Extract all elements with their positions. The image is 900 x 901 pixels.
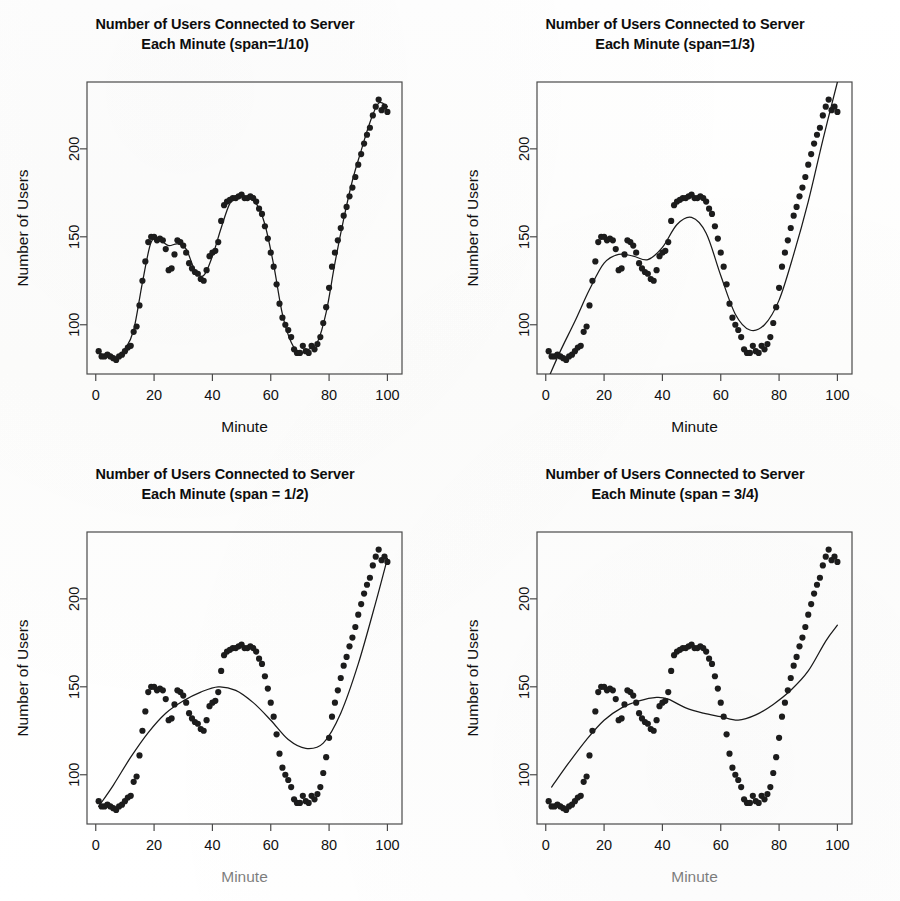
data-point — [715, 685, 721, 691]
data-point — [201, 728, 207, 734]
data-point — [767, 784, 773, 790]
data-point — [384, 559, 390, 565]
data-point — [796, 643, 802, 649]
data-point — [712, 223, 718, 229]
data-point — [782, 700, 788, 706]
data-point — [163, 246, 169, 252]
data-point — [256, 656, 262, 662]
data-point — [636, 710, 642, 716]
data-point — [826, 96, 832, 102]
data-point — [735, 327, 741, 333]
data-point — [589, 278, 595, 284]
chart-svg: 020406080100100150200MinuteNumber of Use… — [0, 0, 450, 451]
data-point — [279, 765, 285, 771]
data-point — [756, 350, 762, 356]
data-point — [343, 204, 349, 210]
x-axis-title: Minute — [221, 418, 268, 435]
data-point — [738, 334, 744, 340]
data-point — [326, 285, 332, 291]
data-point — [218, 668, 224, 674]
data-point — [726, 301, 732, 307]
data-point — [96, 348, 102, 354]
data-point — [215, 239, 221, 245]
data-point — [793, 204, 799, 210]
x-tick-label: 20 — [146, 387, 162, 403]
loess-smooth-line — [549, 82, 838, 378]
data-point — [262, 223, 268, 229]
data-point — [788, 225, 794, 231]
chart-panel-span-1-3: Number of Users Connected to Server Each… — [450, 0, 900, 450]
data-point — [788, 675, 794, 681]
data-point — [381, 104, 387, 110]
data-point — [776, 285, 782, 291]
data-point — [706, 206, 712, 212]
data-point — [131, 779, 137, 785]
data-point — [808, 601, 814, 607]
data-point — [805, 612, 811, 618]
x-tick-label: 20 — [146, 837, 162, 853]
y-tick-label: 150 — [516, 225, 532, 249]
data-point — [767, 334, 773, 340]
data-point — [546, 348, 552, 354]
data-point — [212, 698, 218, 704]
data-point — [613, 696, 619, 702]
x-tick-label: 20 — [596, 837, 612, 853]
data-point — [358, 601, 364, 607]
y-tick-label: 200 — [516, 587, 532, 611]
data-point — [808, 151, 814, 157]
x-tick-label: 40 — [654, 387, 670, 403]
data-point — [610, 687, 616, 693]
data-point — [721, 714, 727, 720]
x-tick-label: 0 — [542, 837, 550, 853]
scatter-points — [546, 546, 841, 813]
data-point — [796, 193, 802, 199]
data-point — [265, 685, 271, 691]
data-point — [139, 728, 145, 734]
data-point — [361, 590, 367, 596]
data-point — [805, 162, 811, 168]
y-tick-label: 100 — [66, 763, 82, 787]
x-tick-label: 20 — [596, 387, 612, 403]
data-point — [793, 654, 799, 660]
data-point — [802, 624, 808, 630]
data-point — [268, 700, 274, 706]
data-point — [279, 315, 285, 321]
data-point — [811, 590, 817, 596]
data-point — [314, 341, 320, 347]
chart-svg: 020406080100100150200MinuteNumber of Use… — [450, 0, 900, 451]
data-point — [317, 784, 323, 790]
data-point — [253, 199, 259, 205]
data-point — [706, 656, 712, 662]
data-point — [581, 779, 587, 785]
data-point — [662, 248, 668, 254]
x-tick-label: 60 — [263, 837, 279, 853]
data-point — [613, 246, 619, 252]
data-point — [761, 346, 767, 352]
data-point — [136, 752, 142, 758]
data-point — [703, 199, 709, 205]
x-tick-label: 80 — [321, 837, 337, 853]
data-point — [764, 791, 770, 797]
x-tick-label: 80 — [321, 387, 337, 403]
data-point — [645, 271, 651, 277]
data-point — [133, 323, 139, 329]
data-point — [142, 258, 148, 264]
x-axis-title: Minute — [221, 868, 268, 885]
data-point — [349, 634, 355, 640]
x-tick-label: 0 — [92, 837, 100, 853]
data-point — [128, 343, 134, 349]
data-point — [721, 264, 727, 270]
data-point — [817, 575, 823, 581]
data-point — [750, 343, 756, 349]
data-point — [320, 320, 326, 326]
data-point — [785, 237, 791, 243]
data-point — [729, 315, 735, 321]
data-point — [273, 281, 279, 287]
data-point — [735, 777, 741, 783]
data-point — [183, 250, 189, 256]
x-axis-title: Minute — [671, 868, 718, 885]
data-point — [276, 301, 282, 307]
y-tick-label: 150 — [66, 225, 82, 249]
data-point — [253, 649, 259, 655]
data-point — [343, 654, 349, 660]
